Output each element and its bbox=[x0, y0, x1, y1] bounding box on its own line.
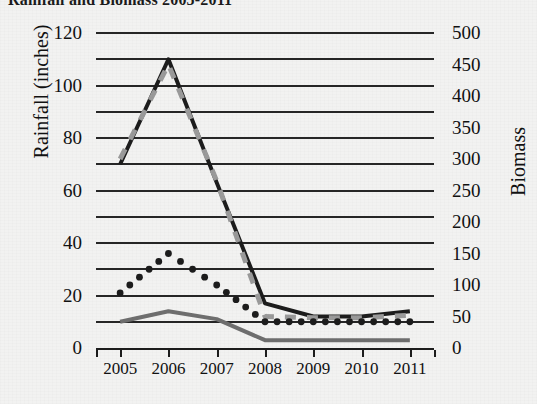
chart-figure: Rainfall and Biomass 2005-2011 020406080… bbox=[0, 0, 537, 404]
series-layer bbox=[0, 0, 537, 404]
data-series-series-black-solid bbox=[120, 59, 410, 316]
data-series-series-gray-dashed bbox=[120, 65, 410, 318]
